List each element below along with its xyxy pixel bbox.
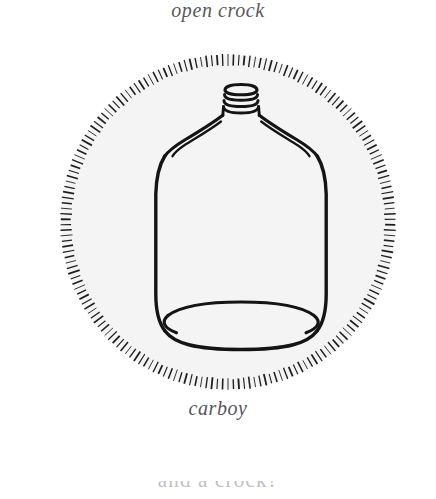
cut-off-text-strip: and a crock? [0, 481, 436, 499]
cut-off-text: and a crock? [0, 481, 436, 493]
circular-illustration-plate [52, 46, 404, 398]
carboy-drawing [52, 46, 404, 398]
caption-above-figure: open crock [0, 0, 436, 22]
caption-below-figure: carboy [0, 396, 436, 420]
illustration-page: open crock [0, 0, 436, 499]
